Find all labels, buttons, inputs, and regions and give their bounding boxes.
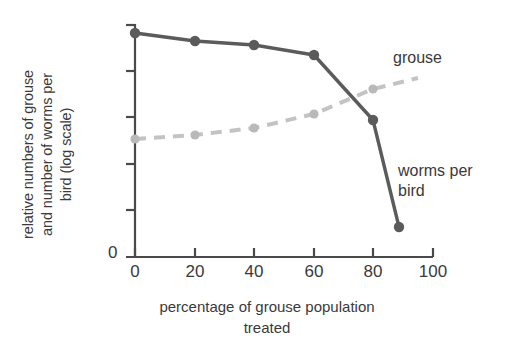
x-axis-label: percentage of grouse population treated <box>92 296 442 338</box>
series-worms-line <box>135 33 399 227</box>
series-worms-per-bird <box>130 28 404 232</box>
series-label-grouse: grouse <box>393 48 442 68</box>
x-axis-ticks <box>135 248 433 257</box>
y-axis-ticks <box>126 25 135 210</box>
x-tick-label-20: 20 <box>173 262 217 282</box>
series-worms-markers <box>130 28 404 232</box>
series-grouse-markers <box>130 84 377 143</box>
y-axis-zero-label: 0 <box>108 243 117 263</box>
x-tick-label-80: 80 <box>351 262 395 282</box>
chart-figure: relative numbers of grouse and number of… <box>0 0 518 355</box>
x-tick-label-60: 60 <box>292 262 336 282</box>
series-label-worms-per-bird: worms per bird <box>398 161 473 201</box>
x-tick-label-40: 40 <box>232 262 276 282</box>
x-tick-label-100: 100 <box>411 262 455 282</box>
x-tick-label-0: 0 <box>113 262 157 282</box>
